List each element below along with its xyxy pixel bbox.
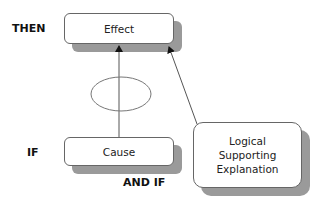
connectors xyxy=(0,0,327,205)
explanation-to-effect-arrow xyxy=(169,47,197,124)
assumption-ellipse xyxy=(91,77,151,111)
